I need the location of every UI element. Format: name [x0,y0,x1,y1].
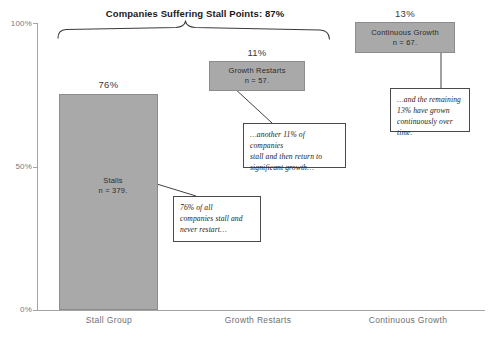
brace-bracket [58,22,330,40]
callout-growth-restarts: …another 11% of companies stall and then… [243,123,346,168]
callout-growth-restarts-line1: …another 11% of companies [250,129,339,151]
callout-growth-restarts-line3: significant growth… [250,162,339,173]
callout-stalls: 76% of all companies stall and never res… [173,196,261,242]
x-axis-label-stall-group: Stall Group [58,315,160,325]
x-axis-label-continuous-growth: Continuous Growth [352,315,464,325]
bar-value-label-growth-restarts: 11% [209,47,305,58]
box-label-count-continuous-growth: n = 67. [393,38,418,48]
callout-continuous-growth-line2: 13% have grown [397,105,463,116]
y-axis-tick-100: 100% [6,19,32,28]
leader-line-restarts [233,87,272,123]
bar-value-label-stall-group: 76% [59,79,158,90]
y-axis-tick-0: 0% [6,305,32,314]
bar-continuous-growth[interactable]: Continuous Growth n = 67. [355,22,455,53]
bar-stall-group[interactable] [59,94,158,310]
callout-continuous-growth-line3: continuously over time. [397,116,463,138]
box-label-name-continuous-growth: Continuous Growth [371,28,439,38]
bar-inline-label-count: n = 379. [78,186,148,196]
callout-continuous-growth: …and the remaining 13% have grown contin… [390,88,470,132]
chart-canvas: Companies Suffering Stall Points: 87% 10… [0,0,488,337]
callout-growth-restarts-line2: stall and then return to [250,151,339,162]
callout-continuous-growth-line1: …and the remaining [397,94,463,105]
box-label-count-growth-restarts: n = 57. [245,76,270,86]
callout-stalls-line1: 76% of all [180,202,254,213]
bar-inline-label-stalls: Stalls n = 379. [78,176,148,195]
bar-growth-restarts[interactable]: Growth Restarts n = 57. [209,61,305,91]
x-axis-label-growth-restarts: Growth Restarts [203,315,313,325]
callout-stalls-line3: never restart… [180,224,254,235]
callout-stalls-line2: companies stall and [180,213,254,224]
box-label-name-growth-restarts: Growth Restarts [228,66,285,76]
bar-value-label-continuous-growth: 13% [355,8,455,19]
chart-title: Companies Suffering Stall Points: 87% [60,8,330,19]
y-axis-tick-50: 50% [6,162,32,171]
bar-inline-label-name: Stalls [78,176,148,186]
